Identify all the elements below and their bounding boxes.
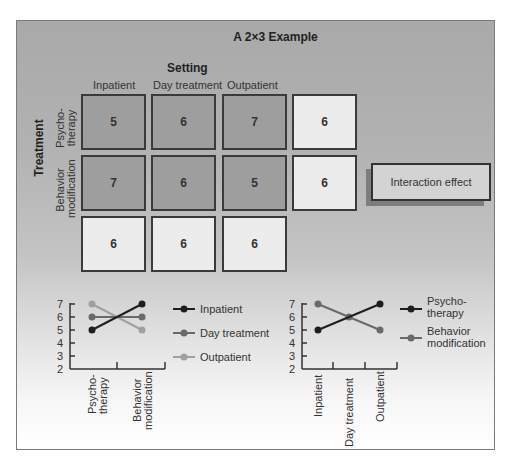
legend-item-psychotherapy: Psycho- therapy: [400, 295, 467, 319]
right-chart-legend: Psycho- therapy Behavior modification: [400, 295, 486, 349]
svg-text:Psycho-: Psycho-: [427, 295, 467, 307]
right-chart-x-axis: [302, 362, 397, 369]
svg-text:5: 5: [289, 324, 295, 336]
svg-text:2: 2: [289, 363, 295, 375]
line-chart-by-setting: 7 6 5 4 3 2 Inpatient Day treatment Outp…: [0, 0, 509, 470]
svg-text:7: 7: [289, 298, 295, 310]
svg-text:4: 4: [289, 337, 295, 349]
svg-text:6: 6: [289, 311, 295, 323]
series-psychotherapy: [315, 301, 384, 334]
right-chart-y-axis: [302, 303, 307, 369]
svg-text:Inpatient: Inpatient: [312, 375, 324, 417]
right-chart-y-ticks: 7 6 5 4 3 2: [289, 298, 295, 375]
legend-item-behavior-modification: Behavior modification: [400, 325, 486, 349]
right-chart-x-ticks: Inpatient Day treatment Outpatient: [312, 371, 386, 447]
svg-text:Day treatment: Day treatment: [343, 378, 355, 447]
svg-text:therapy: therapy: [427, 307, 464, 319]
svg-text:modification: modification: [427, 337, 486, 349]
svg-text:Behavior: Behavior: [427, 325, 471, 337]
svg-text:Outpatient: Outpatient: [374, 371, 386, 422]
svg-text:3: 3: [289, 350, 295, 362]
